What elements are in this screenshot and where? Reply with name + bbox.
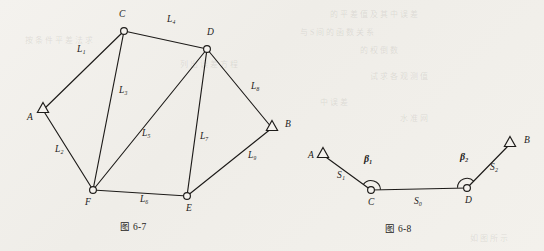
- edge-label-L7: L₇: [199, 131, 209, 141]
- edge-L5: [93, 49, 207, 190]
- node-label-C: C: [119, 9, 126, 19]
- edge-L2: [43, 110, 93, 190]
- node-marker-D-circle: [204, 46, 211, 53]
- edge-label-L6: L₆: [139, 194, 149, 204]
- figures-canvas: .edge-line { stroke: #1d1b19; stroke-wid…: [0, 0, 544, 251]
- figure-6-8-caption: 图 6-8: [385, 221, 412, 235]
- node-marker-F-circle: [90, 187, 97, 194]
- scanned-page: 的 平 差 值 及 其 中 误 差与 S 间 的 函 数 关 系按 条 件 平 …: [0, 0, 544, 251]
- edge-label-L5: L₅: [141, 128, 151, 138]
- edge-L7: [187, 49, 207, 196]
- node-marker-C-circle: [121, 28, 128, 35]
- figure-6-8-nodes: [317, 137, 515, 194]
- node-label-E: E: [185, 203, 192, 213]
- node-label-F: F: [84, 197, 91, 207]
- edge-L4: [124, 31, 207, 49]
- edge-label-S2: S₂: [490, 162, 499, 172]
- figure-6-7-nodes: [37, 28, 277, 200]
- node-marker-A-triangle-fig68: [317, 148, 328, 158]
- figure-6-7-node-labels: A B C D E F: [26, 9, 291, 213]
- figure-6-7: A B C D E F L₁ L₂ L₃ L₄ L₅ L₆ L₇ L₈ L₉: [26, 9, 291, 213]
- edge-label-L9: L₉: [247, 150, 257, 160]
- edge-label-S0: S₀: [414, 196, 422, 206]
- edge-L8: [207, 49, 272, 128]
- edge-label-L4: L₄: [166, 14, 176, 24]
- node-label-B-fig68: B: [524, 135, 530, 145]
- figure-6-8-edge-labels: S₁ S₀ S₂: [337, 162, 499, 206]
- node-label-C-fig68: C: [368, 197, 375, 207]
- edge-label-L2: L₂: [54, 144, 64, 154]
- node-label-B: B: [285, 119, 291, 129]
- figure-6-8: A C D B S₁ S₀ S₂ β₁ β₂: [307, 135, 530, 207]
- edge-L3: [93, 31, 124, 190]
- edge-L1: [43, 31, 124, 110]
- figure-6-8-angle-labels: β₁ β₂: [363, 151, 469, 164]
- node-marker-E-circle: [184, 193, 191, 200]
- figure-6-8-edges: [323, 144, 510, 190]
- node-marker-A-triangle: [37, 103, 48, 113]
- node-label-D-fig68: D: [464, 195, 472, 205]
- node-marker-D-circle-fig68: [464, 185, 471, 192]
- figure-6-7-edge-labels: L₁ L₂ L₃ L₄ L₅ L₆ L₇ L₈ L₉: [54, 14, 260, 204]
- node-marker-C-circle-fig68: [368, 187, 375, 194]
- figure-6-7-edges: [43, 31, 272, 196]
- node-marker-B-triangle: [266, 121, 277, 131]
- angle-label-beta2: β₂: [459, 151, 469, 162]
- figure-6-7-caption: 图 6-7: [120, 219, 147, 233]
- edge-S0: [371, 188, 467, 190]
- edge-label-S1: S₁: [337, 170, 345, 180]
- node-label-A-fig68: A: [307, 150, 314, 160]
- node-label-A: A: [26, 112, 33, 122]
- edge-label-L8: L₈: [250, 81, 260, 91]
- node-label-D: D: [206, 27, 214, 37]
- edge-label-L3: L₃: [118, 85, 128, 95]
- edge-label-L1: L₁: [76, 44, 86, 54]
- node-marker-B-triangle-fig68: [504, 137, 515, 147]
- angle-label-beta1: β₁: [363, 153, 373, 164]
